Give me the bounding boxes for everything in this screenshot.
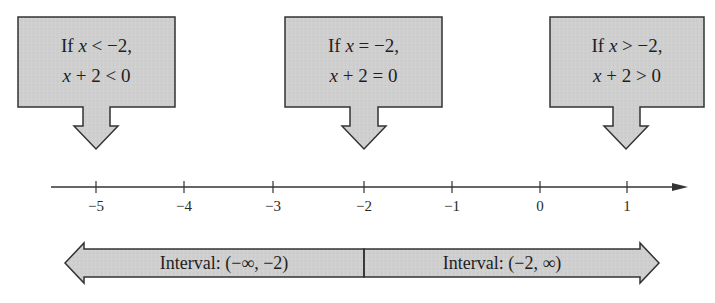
interval-label-left: Interval: (−∞, −2) (84, 250, 364, 276)
tick-label: 1 (607, 198, 647, 215)
callout-line1: If x > −2, (550, 31, 704, 61)
callout-text-less: If x < −2, x + 2 < 0 (18, 31, 175, 91)
number-line-arrow-icon (672, 183, 688, 191)
tick-label: −3 (253, 198, 293, 215)
callout-text-greater: If x > −2, x + 2 > 0 (550, 31, 704, 91)
tick-label: 0 (520, 198, 560, 215)
callout-line1: If x = −2, (285, 31, 442, 61)
number-line (51, 181, 688, 193)
callout-line2: x + 2 = 0 (285, 61, 442, 91)
tick-label: −1 (432, 198, 472, 215)
tick-label: −5 (76, 198, 116, 215)
tick-label: −4 (164, 198, 204, 215)
callout-text-equal: If x = −2, x + 2 = 0 (285, 31, 442, 91)
tick-label: −2 (344, 198, 384, 215)
callout-line2: x + 2 < 0 (18, 61, 175, 91)
interval-label-right: Interval: (−2, ∞) (364, 250, 640, 276)
callout-line2: x + 2 > 0 (550, 61, 704, 91)
callout-line1: If x < −2, (18, 31, 175, 61)
